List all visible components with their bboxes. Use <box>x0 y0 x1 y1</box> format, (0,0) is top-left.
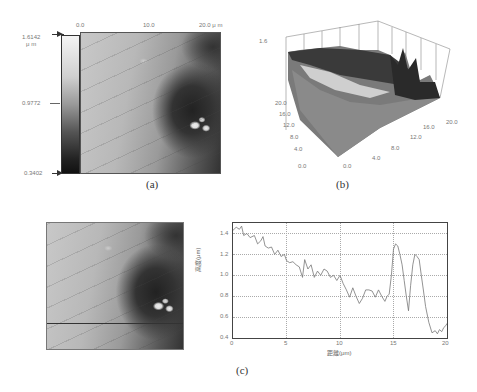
caption-c: (c) <box>236 364 248 376</box>
colorbar-max-label: 1.6142 μ m <box>22 34 40 48</box>
right-axis-tick-0: 0.0 <box>343 163 351 169</box>
colorbar-min-label: 0.3402 <box>24 170 42 176</box>
x-tick-10: 10 <box>336 340 343 346</box>
right-axis-tick-12: 12.0 <box>410 134 422 140</box>
caption-b: (b) <box>336 178 349 190</box>
left-axis-tick-0: 0.0 <box>298 163 306 169</box>
y-tick-0.8: 0.8 <box>220 292 228 298</box>
colorbar-mid-label: 0.9772 <box>22 100 40 106</box>
x-tick-10: 10.0 <box>143 22 155 28</box>
x-tick-15: 15 <box>390 340 397 346</box>
x-tick-20: 20.0 μ m <box>199 22 222 28</box>
right-axis-tick-4: 4.0 <box>372 155 380 161</box>
afm-height-image <box>80 32 221 174</box>
x-tick-20: 20 <box>442 340 449 346</box>
caption-a: (a) <box>146 178 158 190</box>
y-tick-0.6: 0.6 <box>220 313 228 319</box>
y-axis-label: 高度(μm) <box>193 248 202 272</box>
profile-line-series <box>233 223 447 338</box>
left-axis-tick-20: 20.0 <box>275 100 287 106</box>
colorbar-max-value: 1.6142 <box>22 34 40 41</box>
x-tick-0: 0.0 <box>76 22 84 28</box>
profile-chart-plot-area <box>232 222 448 339</box>
height-colorbar <box>61 35 80 174</box>
afm-profile-image <box>46 222 184 350</box>
left-axis-tick-16: 16.0 <box>279 111 291 117</box>
y-tick-1.0: 1.0 <box>220 271 228 277</box>
x-tick-5: 5 <box>284 340 287 346</box>
colorbar-mid-tick <box>50 103 60 104</box>
scratch-texture <box>81 33 220 173</box>
right-axis-tick-16: 16.0 <box>423 124 435 130</box>
scratch-texture <box>47 223 183 349</box>
left-axis-tick-12: 12.0 <box>283 122 295 128</box>
right-axis-tick-8: 8.0 <box>391 145 399 151</box>
x-axis-label: 距離(μm) <box>327 348 351 357</box>
x-tick-0: 0 <box>230 340 233 346</box>
y-tick-1.2: 1.2 <box>220 251 228 257</box>
left-axis-tick-8: 8.0 <box>290 134 298 140</box>
y-tick-1.4: 1.4 <box>220 230 228 236</box>
colorbar-unit: μ m <box>22 41 40 48</box>
profile-line <box>47 323 183 324</box>
y-tick-0.4: 0.4 <box>220 334 228 340</box>
left-axis-tick-4: 4.0 <box>294 146 302 152</box>
right-axis-tick-20: 20.0 <box>446 119 458 125</box>
3d-surface-plot <box>240 20 477 170</box>
